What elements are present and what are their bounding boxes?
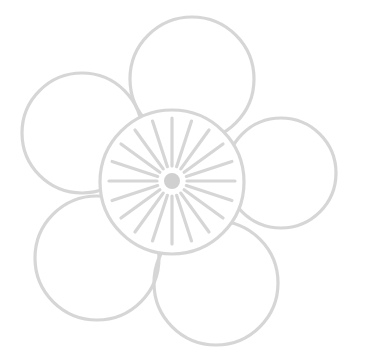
center-dot: [163, 172, 181, 190]
flower-diagram: [0, 0, 366, 360]
flower-icon: [0, 0, 366, 360]
center-dot-group: [163, 172, 181, 190]
